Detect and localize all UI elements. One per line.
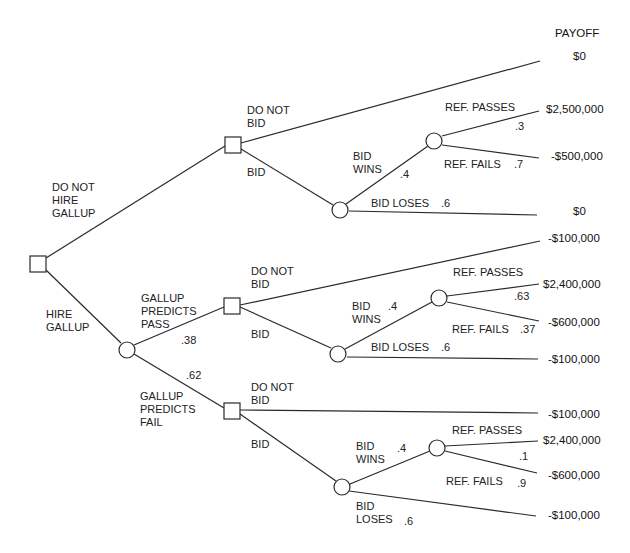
label-no-gallup-bid: BID xyxy=(247,166,265,179)
edge-fail-ref-passes xyxy=(445,441,538,446)
prob-gallup-predicts-fail: .62 xyxy=(186,369,201,382)
payoff-pass-ref-fails: -$600,000 xyxy=(548,316,600,329)
edge-pass-bid-loses xyxy=(347,357,538,359)
label-pass-bid-loses: BID LOSES xyxy=(371,341,429,354)
label-fail-ref-passes: REF. PASSES xyxy=(452,424,522,437)
payoff-pass-bid-loses: -$100,000 xyxy=(548,353,600,366)
label-fail-bid-loses: BID LOSES xyxy=(356,500,393,526)
prob-pass-ref-fails: .37 xyxy=(520,323,535,336)
prob-fail-bid-wins: .4 xyxy=(397,442,406,455)
decision-node-predicts-fail-bid xyxy=(224,403,240,419)
label-fail-ref-fails: REF. FAILS xyxy=(446,475,503,488)
prob-no-gallup-bid-wins: .4 xyxy=(400,168,409,181)
prob-pass-bid-loses: .6 xyxy=(441,341,450,354)
payoff-no-gallup-ref-fails: -$500,000 xyxy=(551,150,603,163)
label-pass-ref-passes: REF. PASSES xyxy=(453,266,523,279)
edge-pass-ref-fails xyxy=(447,302,539,321)
label-pass-ref-fails: REF. FAILS xyxy=(452,323,509,336)
decision-node-predicts-pass-bid xyxy=(224,298,240,314)
prob-no-gallup-bid-loses: .6 xyxy=(441,197,450,210)
chance-node-fail-bid-outcome xyxy=(334,479,350,495)
decision-node-root xyxy=(30,256,46,272)
chance-node-pass-referendum xyxy=(431,290,447,306)
prob-fail-bid-loses: .6 xyxy=(404,515,413,528)
label-no-gallup-ref-fails: REF. FAILS xyxy=(444,158,501,171)
payoff-fail-ref-passes: $2,400,000 xyxy=(543,434,601,447)
payoff-fail-bid-loses: -$100,000 xyxy=(548,509,600,522)
prob-no-gallup-ref-passes: .3 xyxy=(515,120,524,133)
label-pass-do-not-bid: DO NOT BID xyxy=(251,265,294,291)
chance-node-no-gallup-bid-outcome xyxy=(332,202,348,218)
prob-pass-ref-passes: .63 xyxy=(514,290,529,303)
edge-fail-do-not-bid xyxy=(240,410,538,413)
chance-node-fail-referendum xyxy=(429,440,445,456)
label-no-gallup-do-not-bid: DO NOT BID xyxy=(247,104,290,130)
prob-no-gallup-ref-fails: .7 xyxy=(514,158,523,171)
label-do-not-hire-gallup: DO NOT HIRE GALLUP xyxy=(52,181,95,220)
chance-node-hire-gallup xyxy=(119,342,135,358)
label-fail-bid: BID xyxy=(251,438,269,451)
payoff-pass-do-not-bid: -$100,000 xyxy=(548,232,600,245)
prob-gallup-predicts-pass: .38 xyxy=(181,334,196,347)
edge-dnh-ref-passes xyxy=(442,111,539,136)
prob-fail-ref-passes: .1 xyxy=(519,450,528,463)
label-no-gallup-bid-loses: BID LOSES xyxy=(371,197,429,210)
decision-node-no-gallup-bid xyxy=(225,137,241,153)
label-gallup-predicts-pass: GALLUP PREDICTS PASS xyxy=(141,292,197,331)
edge-dnh-ref-fails xyxy=(442,145,539,158)
payoff-fail-do-not-bid: -$100,000 xyxy=(548,408,600,421)
chance-node-no-gallup-referendum xyxy=(426,133,442,149)
label-fail-do-not-bid: DO NOT BID xyxy=(251,381,294,407)
label-no-gallup-bid-wins: BID WINS xyxy=(353,150,382,176)
label-pass-bid-wins: BID WINS xyxy=(352,300,381,326)
label-gallup-predicts-fail: GALLUP PREDICTS FAIL xyxy=(140,390,196,429)
chance-node-pass-bid-outcome xyxy=(330,346,346,362)
label-pass-bid: BID xyxy=(251,328,269,341)
payoff-no-gallup-do-not-bid: $0 xyxy=(573,50,586,63)
prob-fail-ref-fails: .9 xyxy=(517,477,526,490)
payoff-no-gallup-ref-passes: $2,500,000 xyxy=(546,103,604,116)
decision-tree xyxy=(0,0,630,553)
payoff-fail-ref-fails: -$600,000 xyxy=(548,469,600,482)
label-hire-gallup: HIRE GALLUP xyxy=(46,308,89,334)
payoff-column-header: PAYOFF xyxy=(555,27,599,40)
edge-dnh-bid-loses xyxy=(349,211,537,215)
payoff-no-gallup-bid-loses: $0 xyxy=(573,205,586,218)
payoff-pass-ref-passes: $2,400,000 xyxy=(543,278,601,291)
label-no-gallup-ref-passes: REF. PASSES xyxy=(445,101,515,114)
label-fail-bid-wins: BID WINS xyxy=(356,440,385,466)
prob-pass-bid-wins: .4 xyxy=(388,300,397,313)
